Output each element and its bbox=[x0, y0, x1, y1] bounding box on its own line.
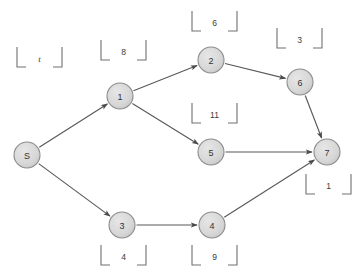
bracket-value-n3: 4 bbox=[121, 252, 126, 262]
graph-node-1[interactable]: 1 bbox=[107, 83, 133, 109]
bracket-value-t: t bbox=[38, 54, 41, 64]
bracket-left-n4 bbox=[192, 245, 201, 265]
graph-node-4[interactable]: 4 bbox=[199, 212, 225, 238]
node-circle-1[interactable] bbox=[107, 83, 133, 109]
bracket-value-n4: 9 bbox=[212, 252, 217, 262]
graph-node-2[interactable]: 2 bbox=[198, 47, 224, 73]
bracket-right-t bbox=[53, 47, 62, 67]
graph-canvas: t86311149 S1267534 bbox=[0, 0, 357, 280]
bracket-value-n5: 11 bbox=[210, 110, 219, 120]
bracket-value-n6: 3 bbox=[297, 35, 302, 45]
bracket-label-n5: 11 bbox=[192, 103, 237, 123]
bracket-right-n2 bbox=[228, 11, 237, 31]
graph-node-6[interactable]: 6 bbox=[287, 69, 313, 95]
bracket-left-n7 bbox=[306, 174, 315, 194]
node-circle-6[interactable] bbox=[287, 69, 313, 95]
bracket-label-n2: 6 bbox=[192, 11, 237, 31]
graph-node-3[interactable]: 3 bbox=[109, 212, 135, 238]
bracket-label-t: t bbox=[17, 47, 62, 67]
node-circle-S[interactable] bbox=[14, 142, 40, 168]
bracket-value-n1: 8 bbox=[121, 47, 126, 57]
bracket-left-n5 bbox=[192, 103, 201, 123]
bracket-right-n5 bbox=[228, 103, 237, 123]
node-circle-5[interactable] bbox=[198, 139, 224, 165]
node-circle-4[interactable] bbox=[199, 212, 225, 238]
bracket-left-n1 bbox=[101, 40, 110, 60]
graph-node-S[interactable]: S bbox=[14, 142, 40, 168]
bracket-left-n6 bbox=[277, 28, 286, 48]
bracket-right-n3 bbox=[137, 245, 146, 265]
nodes-layer: S1267534 bbox=[14, 47, 340, 238]
edge-4-to-7 bbox=[224, 160, 314, 217]
bracket-right-n4 bbox=[228, 245, 237, 265]
edge-1-to-2 bbox=[133, 66, 197, 91]
brackets-layer: t86311149 bbox=[17, 11, 351, 265]
graph-figure: t86311149 S1267534 bbox=[0, 0, 357, 280]
edge-S-to-3 bbox=[39, 164, 110, 217]
edge-S-to-1 bbox=[39, 104, 107, 147]
edge-2-to-6 bbox=[225, 63, 285, 78]
graph-node-7[interactable]: 7 bbox=[314, 139, 340, 165]
bracket-label-n4: 9 bbox=[192, 245, 237, 265]
node-circle-7[interactable] bbox=[314, 139, 340, 165]
node-circle-2[interactable] bbox=[198, 47, 224, 73]
edges-layer bbox=[39, 63, 322, 225]
bracket-label-n7: 1 bbox=[306, 174, 351, 194]
bracket-value-n2: 6 bbox=[212, 18, 217, 28]
bracket-left-n2 bbox=[192, 11, 201, 31]
bracket-right-n6 bbox=[313, 28, 322, 48]
graph-node-5[interactable]: 5 bbox=[198, 139, 224, 165]
bracket-left-t bbox=[17, 47, 26, 67]
bracket-label-n6: 3 bbox=[277, 28, 322, 48]
bracket-label-n1: 8 bbox=[101, 40, 146, 60]
node-circle-3[interactable] bbox=[109, 212, 135, 238]
edge-1-to-5 bbox=[132, 104, 198, 145]
edge-6-to-7 bbox=[305, 96, 321, 138]
bracket-label-n3: 4 bbox=[101, 245, 146, 265]
bracket-value-n7: 1 bbox=[326, 181, 331, 191]
bracket-right-n7 bbox=[342, 174, 351, 194]
bracket-right-n1 bbox=[137, 40, 146, 60]
bracket-left-n3 bbox=[101, 245, 110, 265]
